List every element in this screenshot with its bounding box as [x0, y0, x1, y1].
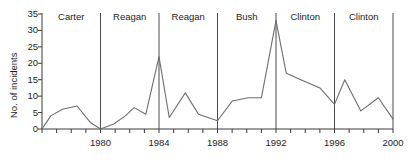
term-label-clinton-4: Clinton	[275, 12, 335, 22]
y-tick-label: 35	[18, 9, 38, 19]
x-tick-label: 1996	[315, 138, 355, 148]
term-label-reagan-2: Reagan	[158, 12, 218, 22]
x-tick-label: 1984	[139, 138, 179, 148]
y-tick-label: 25	[18, 42, 38, 52]
y-tick-label: 0	[18, 124, 38, 134]
x-tick-label: 1988	[198, 138, 238, 148]
x-tick-label: 2000	[373, 138, 408, 148]
x-tick-label: 1992	[256, 138, 296, 148]
y-tick-label: 30	[18, 25, 38, 35]
y-tick-label: 10	[18, 91, 38, 101]
y-tick-label: 5	[18, 108, 38, 118]
term-label-reagan-1: Reagan	[100, 12, 160, 22]
term-label-clinton-5: Clinton	[334, 12, 394, 22]
x-axis-ticks	[42, 129, 393, 133]
term-label-bush-3: Bush	[217, 12, 277, 22]
y-axis-ticks	[38, 14, 42, 129]
x-tick-label: 1980	[81, 138, 121, 148]
term-label-carter-0: Carter	[41, 12, 101, 22]
y-tick-label: 15	[18, 75, 38, 85]
y-tick-label: 20	[18, 58, 38, 68]
term-divider-lines	[101, 13, 394, 129]
